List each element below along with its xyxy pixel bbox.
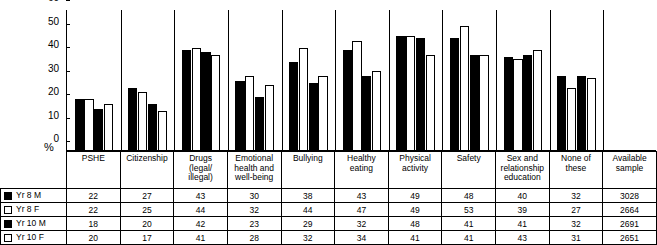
bar [416,38,425,151]
bar-chart-plot: 0102030405060 % [0,0,656,152]
bar [470,55,479,151]
bar [372,71,381,151]
table-cell-value: 28 [227,231,281,245]
bar [255,97,264,151]
column-header-label: Physicalactivity [389,154,442,173]
table-cell-value: 48 [442,189,496,203]
column-header: Healthyeating [335,152,389,189]
column-header-label: None of these [550,154,603,173]
table-cell-value: 20 [67,231,121,245]
table-header-row: PSHECitizenshipDrugs(legal/illegal)Emoti… [1,152,657,189]
bar-group [182,10,221,151]
table-cell-value: 17 [120,231,174,245]
bar-group [289,10,328,151]
legend-item-yr10f[interactable]: Yr 10 F [1,231,67,245]
y-tick-label: 10 [19,111,59,121]
bar [362,76,371,151]
table-cell-value: 41 [174,231,228,245]
bar [104,104,113,151]
column-header-label: Safety [442,154,495,164]
group-separator [442,10,443,151]
data-table: PSHECitizenshipDrugs(legal/illegal)Emoti… [0,151,657,245]
legend-item-yr10m[interactable]: Yr 10 M [1,217,67,231]
bar [265,85,274,151]
bar-group [557,10,596,151]
bar [396,36,405,151]
table-cell-value: 43 [496,231,550,245]
group-separator [282,10,283,151]
column-header-label: Citizenship [121,154,174,164]
table-cell-available-sample: 3028 [603,189,657,203]
legend-label: Yr 10 F [16,233,44,243]
y-tick-label: 60 [19,0,59,3]
table-cell-value: 22 [67,203,121,217]
y-tick-label: 30 [19,64,59,74]
table-cell-value: 30 [227,189,281,203]
table-cell-value: 25 [120,203,174,217]
bar [211,55,220,151]
table-cell-available-sample: 2664 [603,203,657,217]
legend-swatch-icon [4,192,12,200]
bar [567,88,576,151]
table-corner-cell [1,152,67,189]
table-cell-available-sample: 2651 [603,231,657,245]
table-cell-value: 41 [442,231,496,245]
table-row: Yr 10 F201741283234414143312651 [1,231,657,245]
table-cell-value: 43 [335,189,389,203]
group-separator [121,10,122,151]
bar-group [235,10,274,151]
table-cell-value: 34 [335,231,389,245]
group-separator [174,10,175,151]
bar [587,78,596,151]
legend-item-yr8m[interactable]: Yr 8 M [1,189,67,203]
table-row: Yr 8 M222743303843494840323028 [1,189,657,203]
y-tick-mark [66,0,70,1]
table-cell-value: 27 [120,189,174,203]
y-tick-label: 20 [19,87,59,97]
y-tick-label: 50 [19,17,59,27]
table-cell-value: 32 [227,203,281,217]
table-row: Yr 10 M182042232932484141322691 [1,217,657,231]
bar-group [450,10,489,151]
bar [245,76,254,151]
bar [201,52,210,151]
table-cell-value: 41 [388,231,442,245]
legend-swatch-icon [4,206,12,214]
column-header-label: Sex andrelationshipeducation [496,154,549,183]
legend-swatch-icon [4,220,12,228]
column-header-label: PSHE [67,154,120,164]
column-header: Safety [442,152,496,189]
bar [343,50,352,151]
column-header: Drugs(legal/illegal) [174,152,228,189]
table-cell-value: 20 [120,217,174,231]
column-header: Emotionalhealth andwell-being [227,152,281,189]
bar-group [75,10,114,151]
bar [84,99,93,151]
table-cell-value: 40 [496,189,550,203]
bar [513,59,522,151]
table-cell-value: 22 [67,189,121,203]
column-header: None of these [549,152,603,189]
table-cell-value: 47 [335,203,389,217]
bar [235,81,244,152]
bar [460,26,469,151]
column-header-available-sample: Availablesample [603,152,657,189]
bar [75,99,84,151]
table-cell-value: 53 [442,203,496,217]
group-separator [389,10,390,151]
column-header-label: Bullying [282,154,335,164]
group-separator [603,10,604,151]
bar [577,76,586,151]
y-tick-label: 40 [19,40,59,50]
bar [450,38,459,151]
bar [182,50,191,151]
bar [504,57,513,151]
column-header: PSHE [67,152,121,189]
table-cell-value: 38 [281,189,335,203]
column-header-label: Availablesample [603,154,656,173]
column-header: Physicalactivity [388,152,442,189]
table-cell-value: 29 [281,217,335,231]
bar [318,76,327,151]
legend-item-yr8f[interactable]: Yr 8 F [1,203,67,217]
